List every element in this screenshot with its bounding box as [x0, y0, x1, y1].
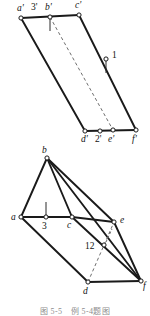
vertex-d-prime — [83, 129, 87, 133]
label-a-prime: a' — [17, 3, 25, 13]
edge-c-prime-f-prime — [79, 15, 136, 130]
label-d: d — [83, 286, 88, 296]
edge-a-d — [21, 217, 88, 282]
vertex-c-prime — [77, 13, 81, 17]
label-f: f — [143, 281, 147, 291]
label-e: e — [120, 215, 124, 225]
point-12-marker — [102, 243, 106, 247]
vertex-c — [70, 215, 74, 219]
label-b: b — [42, 145, 47, 155]
edge-d-f — [88, 281, 141, 282]
label-point-1: 1 — [112, 50, 117, 60]
figure-caption: 图 5-5 例 5-4题图 — [0, 305, 150, 316]
label-3-prime: 3' — [31, 2, 38, 12]
edge-b-e — [47, 158, 114, 222]
edge-c-f — [72, 217, 141, 281]
label-a: a — [11, 212, 16, 222]
point-1-marker — [104, 57, 108, 61]
vertex-b-prime — [48, 15, 52, 19]
edge-d-prime-a-prime — [21, 18, 85, 131]
label-point-12: 12 — [85, 241, 95, 251]
label-f-prime: f' — [132, 134, 138, 144]
edge-a-b — [21, 158, 47, 217]
vertex-a — [19, 215, 23, 219]
vertex-e-prime — [111, 128, 115, 132]
point-3-marker — [44, 215, 48, 219]
vertex-d — [86, 280, 90, 284]
label-d-prime: d' — [81, 134, 89, 144]
point-2-prime-marker — [98, 129, 102, 133]
vertex-f-prime — [134, 128, 138, 132]
front-view-group: a' 3' b' c' 1 d' 2' e' f' — [17, 0, 138, 144]
label-c-prime: c' — [75, 0, 82, 10]
label-c: c — [67, 220, 72, 230]
edge-b-prime-e-prime-hidden — [50, 17, 113, 130]
label-b-prime: b' — [45, 2, 53, 12]
vertex-a-prime — [19, 16, 23, 20]
label-point-3: 3 — [42, 221, 47, 231]
vertex-e — [112, 220, 116, 224]
vertex-b — [45, 156, 49, 160]
label-e-prime: e' — [108, 134, 115, 144]
edge-b-c — [47, 158, 72, 217]
top-view-group: b a 3 c e 12 d f — [11, 145, 147, 296]
label-2-prime: 2' — [95, 134, 102, 144]
